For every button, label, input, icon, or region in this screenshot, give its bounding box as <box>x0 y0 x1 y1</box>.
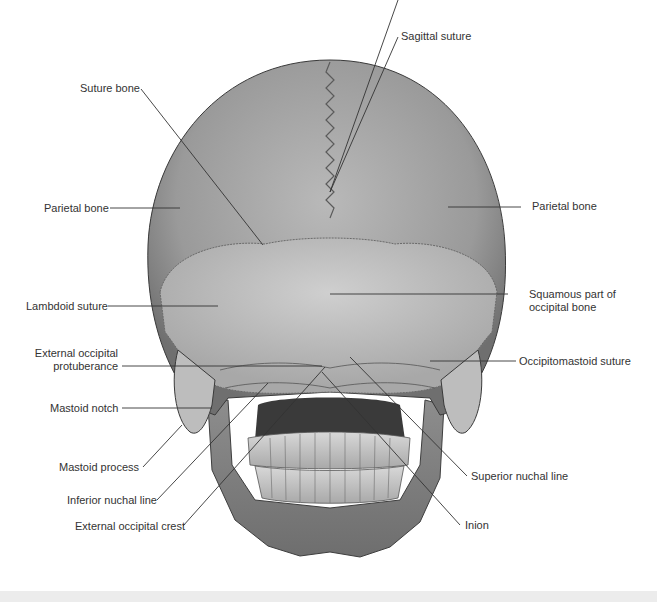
skull-posterior-diagram: Sagittal suture Suture bone Parietal bon… <box>0 0 657 602</box>
label-inferior-nuchal-line: Inferior nuchal line <box>67 494 157 507</box>
upper-teeth <box>248 432 410 469</box>
label-occipitomastoid-suture: Occipitomastoid suture <box>519 355 631 368</box>
label-suture-bone: Suture bone <box>80 82 140 95</box>
lower-teeth <box>255 466 404 503</box>
label-mastoid-process: Mastoid process <box>59 461 139 474</box>
footer-band <box>0 591 657 602</box>
occipital-squama <box>160 238 497 393</box>
label-squamous-part: Squamous part of occipital bone <box>529 288 616 314</box>
label-external-occipital-protuberance: External occipital protuberance <box>30 347 118 373</box>
label-parietal-bone-left: Parietal bone <box>44 202 109 215</box>
label-lambdoid-suture: Lambdoid suture <box>26 300 108 313</box>
label-sagittal-suture: Sagittal suture <box>401 30 471 43</box>
label-superior-nuchal-line: Superior nuchal line <box>471 470 568 483</box>
label-inion: Inion <box>465 519 489 532</box>
label-parietal-bone-right: Parietal bone <box>532 200 597 213</box>
label-mastoid-notch: Mastoid notch <box>50 402 118 415</box>
label-external-occipital-crest: External occipital crest <box>75 520 185 533</box>
